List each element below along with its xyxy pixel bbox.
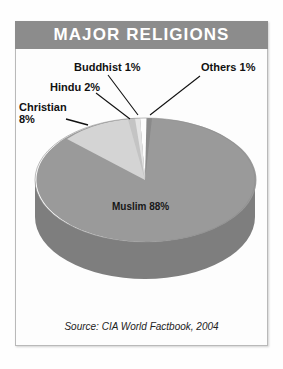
leader-line-buddhist	[108, 75, 138, 115]
label-muslim: Muslim 88%	[112, 201, 169, 212]
chart-title-banner: MAJOR RELIGIONS	[15, 21, 268, 49]
page-title: MAJOR RELIGIONS	[53, 25, 229, 45]
pie-chart-area: Buddhist 1% Others 1% Hindu 2% Christian…	[16, 49, 267, 345]
label-buddhist: Buddhist 1%	[74, 61, 141, 73]
screenshot-root: MAJOR RELIGIONS	[0, 0, 283, 369]
source-note: Source: CIA World Factbook, 2004	[16, 321, 267, 332]
label-christian-line1: Christian	[19, 101, 67, 113]
label-christian-line2: 8%	[19, 113, 67, 125]
label-others: Others 1%	[201, 61, 255, 73]
label-hindu: Hindu 2%	[50, 81, 100, 93]
leader-line-others	[150, 76, 200, 115]
pie-chart-svg	[16, 49, 267, 345]
label-christian: Christian 8%	[19, 101, 67, 125]
leader-line-christian	[66, 119, 88, 125]
